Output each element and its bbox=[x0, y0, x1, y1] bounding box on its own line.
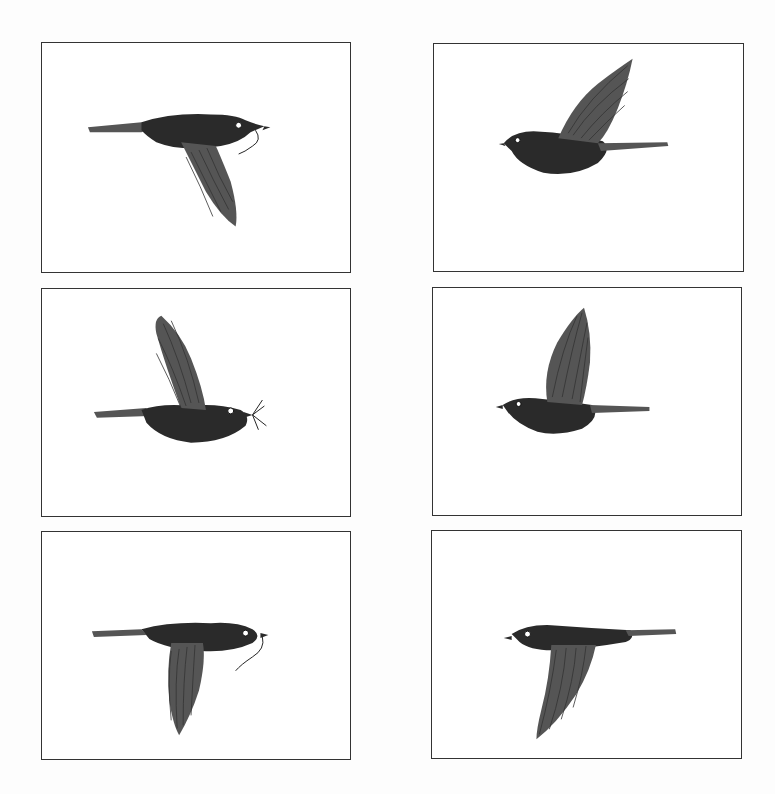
panel-5 bbox=[41, 531, 351, 760]
bird-sketch-5 bbox=[42, 532, 350, 759]
bird-sketch-2 bbox=[434, 44, 743, 271]
bird-sketch-6 bbox=[432, 531, 741, 758]
panel-2 bbox=[433, 43, 744, 272]
bird-sketch-4 bbox=[433, 288, 741, 515]
panel-4 bbox=[432, 287, 742, 516]
panel-6 bbox=[431, 530, 742, 759]
panel-1 bbox=[41, 42, 351, 273]
bird-sketch-3 bbox=[42, 289, 350, 516]
panel-3 bbox=[41, 288, 351, 517]
illustration-sheet bbox=[0, 0, 775, 794]
bird-sketch-1 bbox=[42, 43, 350, 272]
